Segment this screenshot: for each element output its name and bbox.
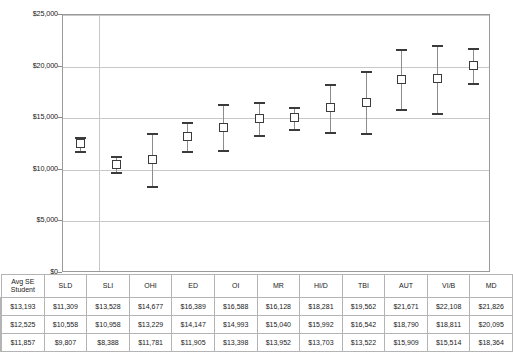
table-cell: $13,528	[87, 298, 130, 316]
data-point-group	[206, 15, 242, 271]
plot-wrapper: $25,000$20,000$15,000$10,000$5,000$0	[0, 0, 513, 274]
data-point-group	[384, 15, 420, 271]
table-column-header: HI/D	[300, 275, 343, 298]
table-cell: $13,398	[214, 334, 257, 352]
lower-bound-marker	[218, 150, 229, 152]
table-cell: $11,309	[44, 298, 87, 316]
table-column-header: OI	[214, 275, 257, 298]
table-cell: $22,108	[427, 298, 470, 316]
upper-bound-marker	[111, 156, 122, 158]
lower-bound-marker	[182, 151, 193, 153]
lower-bound-marker	[147, 186, 158, 188]
upper-bound-marker	[396, 49, 407, 51]
y-axis-tick-mark	[57, 272, 62, 273]
average-marker	[290, 113, 299, 122]
table-column-header: VI/B	[427, 275, 470, 298]
lower-bound-marker	[396, 109, 407, 111]
table-cell: $15,040	[257, 316, 300, 334]
upper-bound-marker	[361, 71, 372, 73]
data-point-group	[277, 15, 313, 271]
lower-bound-marker	[325, 132, 336, 134]
data-point-group	[455, 15, 491, 271]
table-column-header: TBI	[342, 275, 385, 298]
average-marker	[362, 98, 371, 107]
upper-bound-marker	[468, 48, 479, 50]
table-cell: $15,514	[427, 334, 470, 352]
table-cell: $14,147	[172, 316, 215, 334]
table-column-header: OHI	[129, 275, 172, 298]
lower-bound-marker	[111, 172, 122, 174]
table-cell: $13,522	[342, 334, 385, 352]
average-marker	[469, 61, 478, 70]
data-table: Avg SE StudentSLDSLIOHIEDOIMRHI/DTBIAUTV…	[0, 274, 513, 352]
upper-bound-marker	[325, 84, 336, 86]
average-marker	[76, 139, 85, 148]
average-marker	[183, 132, 192, 141]
upper-bound-marker	[218, 104, 229, 106]
table-cell: $20,095	[470, 316, 513, 334]
lower-bound-marker	[468, 83, 479, 85]
table-cell: $13,193	[2, 298, 45, 316]
table-cell: $16,588	[214, 298, 257, 316]
table-cell: $16,389	[172, 298, 215, 316]
table-cell: $9,807	[44, 334, 87, 352]
y-axis-tick-label: $10,000	[0, 165, 58, 173]
table-cell: $13,703	[300, 334, 343, 352]
table-cell: $15,909	[385, 334, 428, 352]
table-cell: $10,958	[87, 316, 130, 334]
table-cell: $8,388	[87, 334, 130, 352]
average-marker	[433, 74, 442, 83]
average-marker	[219, 123, 228, 132]
table-cell: $18,364	[470, 334, 513, 352]
average-marker	[326, 103, 335, 112]
average-marker	[112, 160, 121, 169]
table-row: lower bound$11,857$9,807$8,388$11,781$11…	[1, 334, 513, 352]
table-cell: $13,952	[257, 334, 300, 352]
lower-bound-marker	[254, 135, 265, 137]
data-point-group	[134, 15, 170, 271]
table-cell: $10,558	[44, 316, 87, 334]
table-row: upper bound$13,193$11,309$13,528$14,677$…	[1, 298, 513, 316]
table-cell: $12,525	[2, 316, 45, 334]
data-point-group	[99, 15, 135, 271]
plot-area	[62, 14, 490, 272]
data-point-group	[313, 15, 349, 271]
table-cell: $16,128	[257, 298, 300, 316]
table-cell: $15,992	[300, 316, 343, 334]
average-marker	[255, 114, 264, 123]
table-cell: $18,811	[427, 316, 470, 334]
lower-bound-marker	[289, 129, 300, 131]
table-column-header: AUT	[385, 275, 428, 298]
table-body: upper bound$13,193$11,309$13,528$14,677$…	[1, 298, 513, 352]
table-cell: $11,857	[2, 334, 45, 352]
upper-bound-marker	[432, 45, 443, 47]
upper-bound-marker	[182, 122, 193, 124]
data-point-group	[420, 15, 456, 271]
table-column-header: MD	[470, 275, 513, 298]
table-cell: $21,826	[470, 298, 513, 316]
lower-bound-marker	[361, 133, 372, 135]
table-cell: $11,781	[129, 334, 172, 352]
upper-bound-marker	[289, 107, 300, 109]
data-point-group	[348, 15, 384, 271]
table-cell: $18,790	[385, 316, 428, 334]
table-row: average$12,525$10,558$10,958$13,229$14,1…	[1, 316, 513, 334]
upper-bound-marker	[254, 102, 265, 104]
table-header-row: Avg SE StudentSLDSLIOHIEDOIMRHI/DTBIAUTV…	[1, 275, 513, 298]
y-axis-tick-label: $25,000	[0, 10, 58, 18]
data-point-group	[170, 15, 206, 271]
y-axis-tick-label: $20,000	[0, 62, 58, 70]
table-column-header: ED	[172, 275, 215, 298]
average-marker	[148, 155, 157, 164]
data-point-group	[63, 15, 99, 271]
table-column-header: SLI	[87, 275, 130, 298]
lower-bound-marker	[75, 151, 86, 153]
average-marker	[397, 75, 406, 84]
table-column-header: Avg SE Student	[2, 275, 45, 298]
table-cell: $18,281	[300, 298, 343, 316]
y-axis-tick-label: $15,000	[0, 113, 58, 121]
upper-bound-marker	[147, 133, 158, 135]
y-axis-tick-label: $5,000	[0, 216, 58, 224]
table-column-header: SLD	[44, 275, 87, 298]
